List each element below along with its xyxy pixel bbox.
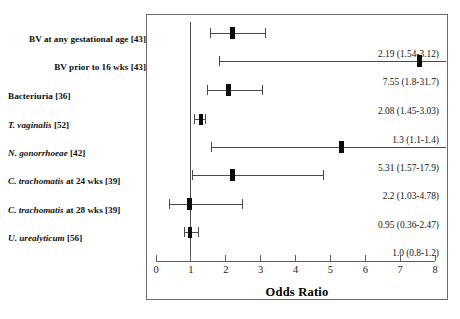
confidence-interval-line xyxy=(169,204,243,205)
effect-value-label: 2.2 (1.03-4.78) xyxy=(149,192,439,201)
confidence-interval-line xyxy=(210,33,265,34)
x-tick-label: 0 xyxy=(146,265,166,276)
x-tick-mark xyxy=(365,255,366,261)
ci-lower-cap xyxy=(210,28,211,38)
effect-value-label: 2.08 (1.45-3.03) xyxy=(149,107,439,116)
forest-plot-figure: BV at any gestational age [43]BV prior t… xyxy=(0,0,460,319)
confidence-interval-line xyxy=(211,147,446,148)
plot-frame: 2.19 (1.54-3.12)7.55 (1.8-31.7)2.08 (1.4… xyxy=(146,14,448,300)
x-tick-mark xyxy=(435,255,436,261)
x-tick-mark xyxy=(400,255,401,261)
effect-value-label: 2.19 (1.54-3.12) xyxy=(149,50,439,59)
x-tick-mark xyxy=(260,255,261,261)
x-tick-label: 5 xyxy=(320,265,340,276)
point-estimate-marker xyxy=(230,27,235,39)
row-label: C. trachomatis at 28 wks [39] xyxy=(8,206,120,215)
x-tick-label: 1 xyxy=(181,265,201,276)
forest-row xyxy=(147,25,447,41)
x-tick-mark xyxy=(225,255,226,261)
x-tick-mark xyxy=(330,255,331,261)
effect-value-label: 7.55 (1.8-31.7) xyxy=(149,78,439,87)
effect-value-label: 1.0 (0.8-1.2) xyxy=(149,249,439,258)
x-tick-label: 4 xyxy=(286,265,306,276)
x-axis-title: Odds Ratio xyxy=(147,285,447,300)
effect-value-label: 5.31 (1.57-17.9) xyxy=(149,164,439,173)
x-tick-label: 8 xyxy=(425,265,445,276)
row-label: BV at any gestational age [43] xyxy=(29,35,146,44)
confidence-interval-line xyxy=(207,90,262,91)
plot-inner-area: 2.19 (1.54-3.12)7.55 (1.8-31.7)2.08 (1.4… xyxy=(147,15,447,299)
ci-upper-cap xyxy=(265,28,266,38)
row-label: BV prior to 16 wks [43] xyxy=(54,63,146,72)
row-label: Bacteriuria [36] xyxy=(8,92,71,101)
confidence-interval-line xyxy=(192,175,323,176)
effect-value-label: 0.95 (0.36-2.47) xyxy=(149,221,439,230)
x-tick-label: 2 xyxy=(216,265,236,276)
x-axis-line xyxy=(156,261,435,262)
x-tick-label: 7 xyxy=(390,265,410,276)
confidence-interval-line xyxy=(219,61,446,62)
row-label: U. urealyticum [56] xyxy=(8,234,82,243)
x-tick-label: 3 xyxy=(251,265,271,276)
effect-value-label: 1.3 (1.1-1.4) xyxy=(149,136,439,145)
x-tick-mark xyxy=(295,255,296,261)
x-tick-mark xyxy=(190,255,191,261)
x-tick-label: 6 xyxy=(355,265,375,276)
x-tick-mark xyxy=(156,255,157,261)
row-label: N. gonorrhoeae [42] xyxy=(8,149,85,158)
row-label: C. trachomatis at 24 wks [39] xyxy=(8,177,120,186)
row-label: T. vaginalis [52] xyxy=(8,121,69,130)
